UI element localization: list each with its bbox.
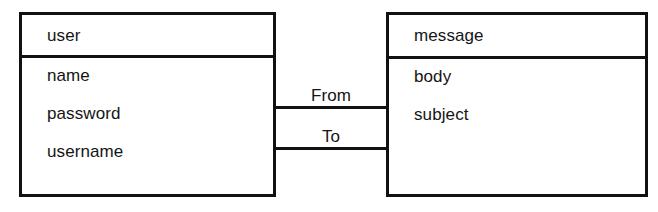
attribute-item[interactable]: username [47,143,273,160]
class-header-user: user [22,15,273,58]
association-connector[interactable]: From To [276,60,386,155]
association-line-to [276,147,386,150]
class-box-message[interactable]: message body subject [386,12,648,197]
uml-class-diagram-canvas: user name password username From To mess… [0,0,658,212]
class-header-message: message [389,15,645,59]
attribute-item[interactable]: body [414,68,645,85]
attribute-item[interactable]: subject [414,106,645,123]
attribute-list-user: name password username [22,58,273,194]
attribute-list-message: body subject [389,59,645,194]
association-role-label-to: To [276,128,386,145]
attribute-item[interactable]: password [47,105,273,122]
attribute-item[interactable]: name [47,67,273,84]
association-role-label-from: From [276,87,386,104]
class-name-user: user [22,27,80,44]
class-box-user[interactable]: user name password username [19,12,276,197]
class-name-message: message [389,27,484,44]
association-line-from [276,106,386,109]
